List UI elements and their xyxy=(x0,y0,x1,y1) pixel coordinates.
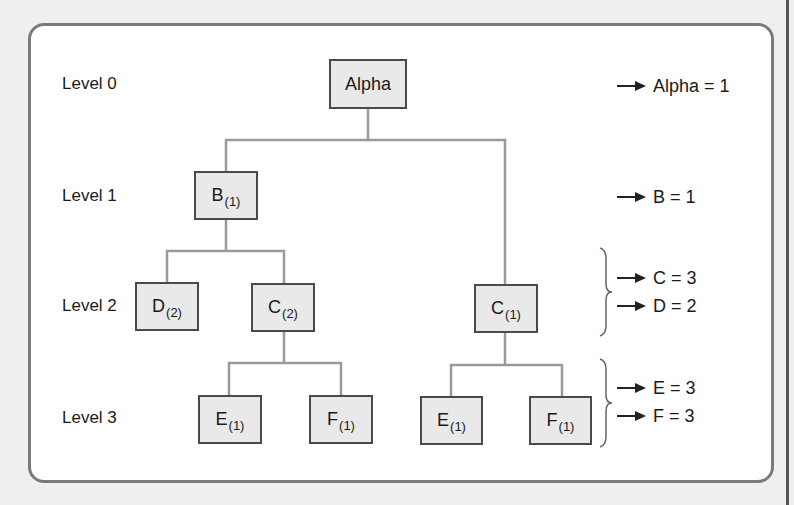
result-b: B = 1 xyxy=(617,187,696,207)
node-alpha: Alpha xyxy=(329,59,407,109)
node-label: C xyxy=(268,297,281,318)
result-text: Alpha = 1 xyxy=(653,76,730,96)
node-f1-right: F(1) xyxy=(529,396,592,445)
node-label: F xyxy=(327,409,338,430)
arrow-right-icon xyxy=(617,300,647,312)
brace-level-2-icon xyxy=(600,248,612,336)
level-2-label: Level 2 xyxy=(62,296,117,316)
node-label: E xyxy=(437,410,449,431)
node-subscript: (1) xyxy=(559,419,575,434)
arrow-right-icon xyxy=(617,382,647,394)
result-alpha: Alpha = 1 xyxy=(617,76,730,96)
node-label: B xyxy=(212,185,224,206)
connector-c1-children xyxy=(451,365,562,396)
arrow-right-icon xyxy=(617,191,647,203)
result-text: D = 2 xyxy=(653,296,697,316)
node-label: F xyxy=(547,410,558,431)
node-subscript: (2) xyxy=(282,306,298,321)
node-subscript: (1) xyxy=(225,194,241,209)
result-e: E = 3 xyxy=(617,378,696,398)
result-f: F = 3 xyxy=(617,406,695,426)
result-d: D = 2 xyxy=(617,296,697,316)
node-d2: D(2) xyxy=(135,282,199,331)
level-0-label: Level 0 xyxy=(62,74,117,94)
result-text: E = 3 xyxy=(653,378,696,398)
result-text: B = 1 xyxy=(653,187,696,207)
node-subscript: (1) xyxy=(229,418,245,433)
node-b1: B(1) xyxy=(194,171,258,220)
node-subscript: (2) xyxy=(166,305,182,320)
node-c1: C(1) xyxy=(474,284,538,333)
node-label: D xyxy=(152,296,165,317)
result-c: C = 3 xyxy=(617,268,697,288)
node-label: Alpha xyxy=(345,74,391,95)
node-subscript: (1) xyxy=(450,419,466,434)
connector-c2-children xyxy=(229,363,341,395)
node-e1-left: E(1) xyxy=(198,395,262,444)
result-text: F = 3 xyxy=(653,406,695,426)
node-label: E xyxy=(216,409,228,430)
node-label: C xyxy=(491,298,504,319)
node-subscript: (1) xyxy=(505,307,521,322)
node-e1-right: E(1) xyxy=(420,396,483,445)
arrow-right-icon xyxy=(617,80,647,92)
node-subscript: (1) xyxy=(339,418,355,433)
arrow-right-icon xyxy=(617,272,647,284)
level-3-label: Level 3 xyxy=(62,408,117,428)
arrow-right-icon xyxy=(617,410,647,422)
node-f1-left: F(1) xyxy=(309,395,373,444)
level-1-label: Level 1 xyxy=(62,186,117,206)
connector-alpha-children xyxy=(226,140,505,284)
connector-b-children xyxy=(167,251,284,283)
result-text: C = 3 xyxy=(653,268,697,288)
node-c2: C(2) xyxy=(251,283,315,332)
brace-level-3-icon xyxy=(600,359,612,447)
